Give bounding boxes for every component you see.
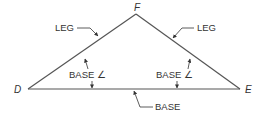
left-angle-leg-arrow bbox=[85, 59, 88, 69]
vertex-d-label: D bbox=[14, 84, 21, 95]
vertex-e-label: E bbox=[245, 84, 252, 95]
right-base-angle-label: BASE ∠ bbox=[156, 69, 193, 80]
right-leg-label: LEG bbox=[197, 22, 216, 33]
left-leg-leader-arrow bbox=[77, 28, 98, 36]
left-base-angle-label: BASE ∠ bbox=[69, 69, 106, 80]
right-angle-leg-arrow bbox=[188, 59, 190, 69]
right-leg-leader-arrow bbox=[173, 28, 194, 38]
vertex-f-label: F bbox=[134, 2, 141, 13]
left-leg-label: LEG bbox=[55, 22, 74, 33]
base-leader-arrow bbox=[134, 91, 153, 107]
base-label: BASE bbox=[155, 101, 180, 112]
isosceles-triangle-diagram: F D E LEG LEG BASE ∠ BASE ∠ BASE bbox=[0, 0, 264, 119]
